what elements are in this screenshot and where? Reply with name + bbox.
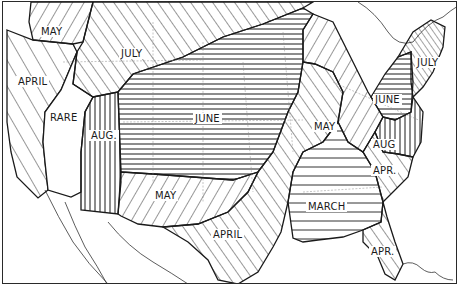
label-mid-atlantic-aug: AUG	[371, 139, 398, 150]
label-northern-plains-july: JULY	[119, 48, 144, 59]
label-nw-may: MAY	[39, 26, 64, 37]
region-rockies-aug	[81, 92, 121, 214]
label-southern-plains-may: MAY	[153, 190, 178, 201]
label-texas-april: APRIL	[211, 229, 244, 240]
label-west-coast-april: APRIL	[16, 76, 49, 87]
label-carolinas-apr: APR.	[371, 165, 398, 176]
map-frame: MAY APRIL RARE JULY AUG. JUNE MAY MAY AP…	[2, 1, 457, 284]
label-central-june: JUNE	[193, 113, 222, 124]
baja-coast-east	[65, 202, 107, 284]
label-great-basin-rare: RARE	[48, 112, 79, 123]
label-new-england-july: JULY	[415, 57, 440, 68]
label-northeast-june: JUNE	[373, 94, 402, 105]
label-southeast-march: MARCH	[306, 201, 347, 212]
caribbean-islands	[403, 263, 453, 280]
label-florida-apr: APR.	[369, 246, 396, 257]
label-rockies-aug: AUG.	[89, 130, 119, 141]
label-ohio-valley-may: MAY	[312, 121, 337, 132]
region-nw-may	[29, 2, 93, 44]
